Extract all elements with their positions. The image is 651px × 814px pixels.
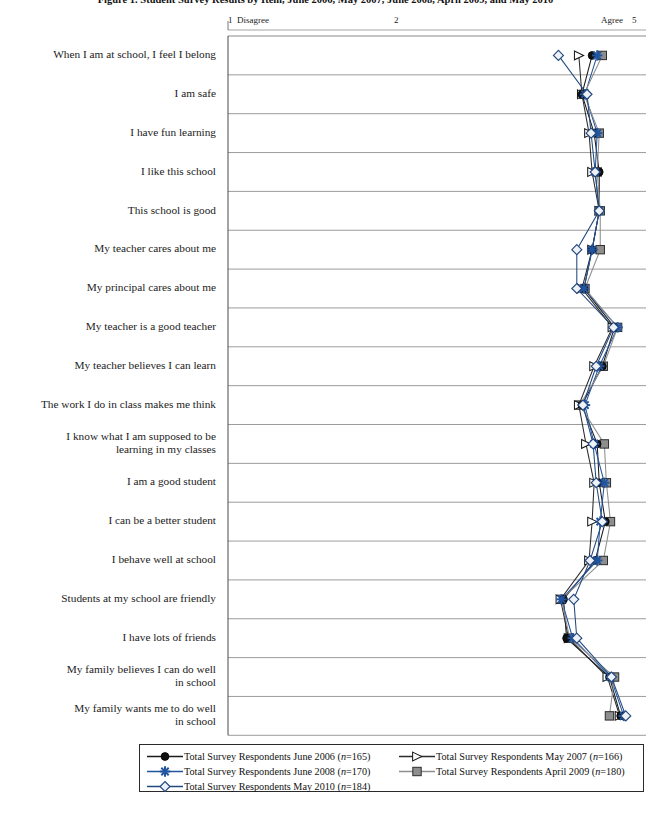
legend-symbol-diamond <box>146 779 184 794</box>
category-label: Students at my school are friendly <box>0 592 222 605</box>
chart-legend: Total Survey Respondents June 2006 (n=16… <box>139 744 644 792</box>
axis-lines <box>228 21 646 735</box>
legend-item-2006[interactable]: Total Survey Respondents June 2006 (n=16… <box>146 749 370 764</box>
gridlines <box>228 36 646 735</box>
category-label: My teacher cares about me <box>0 242 222 255</box>
category-label: My family wants me to do wellin school <box>0 702 222 727</box>
category-label: I have fun learning <box>0 126 222 139</box>
category-label: My principal cares about me <box>0 281 222 294</box>
category-label: My teacher is a good teacher <box>0 320 222 333</box>
legend-label-2008: Total Survey Respondents June 2008 (n=17… <box>184 766 370 777</box>
legend-item-2008[interactable]: Total Survey Respondents June 2008 (n=17… <box>146 764 370 779</box>
legend-item-2007[interactable]: Total Survey Respondents May 2007 (n=166… <box>398 749 622 764</box>
legend-label-2007: Total Survey Respondents May 2007 (n=166… <box>436 751 622 762</box>
student-survey-line-chart: Figure 1. Student Survey Results by Item… <box>0 0 651 814</box>
legend-symbol-square <box>398 764 436 779</box>
legend-label-2010: Total Survey Respondents May 2010 (n=184… <box>184 781 370 792</box>
category-label: I like this school <box>0 165 222 178</box>
category-label: I behave well at school <box>0 553 222 566</box>
category-label: This school is good <box>0 204 222 217</box>
legend-label-2006: Total Survey Respondents June 2006 (n=16… <box>184 751 370 762</box>
category-label: When I am at school, I feel I belong <box>0 48 222 61</box>
category-label: My teacher believes I can learn <box>0 359 222 372</box>
category-label: My family believes I can do wellin schoo… <box>0 663 222 688</box>
legend-item-2009[interactable]: Total Survey Respondents April 2009 (n=1… <box>398 764 625 779</box>
category-label: I am a good student <box>0 475 222 488</box>
category-label: The work I do in class makes me think <box>0 398 222 411</box>
category-label: I am safe <box>0 87 222 100</box>
category-label: I can be a better student <box>0 514 222 527</box>
category-label: I have lots of friends <box>0 631 222 644</box>
legend-symbol-triangle <box>398 749 436 764</box>
legend-label-2009: Total Survey Respondents April 2009 (n=1… <box>436 766 625 777</box>
legend-symbol-circle <box>146 749 184 764</box>
legend-symbol-star <box>146 764 184 779</box>
category-label: I know what I am supposed to belearning … <box>0 430 222 455</box>
legend-item-2010[interactable]: Total Survey Respondents May 2010 (n=184… <box>146 779 370 794</box>
